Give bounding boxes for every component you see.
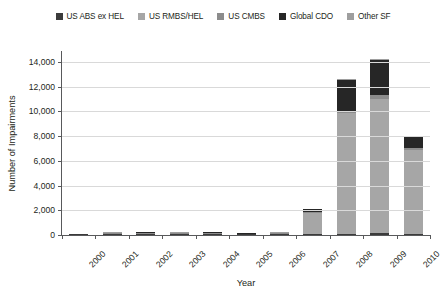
legend-item-2[interactable]: US CMBS (217, 12, 265, 21)
bar-2000[interactable] (69, 234, 88, 235)
legend-item-1[interactable]: US RMBS/HEL (138, 12, 203, 21)
legend-label: US RMBS/HEL (149, 12, 203, 21)
legend-item-0[interactable]: US ABS ex HEL (56, 12, 124, 21)
y-axis-tick (58, 186, 62, 187)
bar-segment-0 (103, 234, 122, 235)
y-axis-label: 8,000 (33, 132, 55, 141)
y-axis-tick (58, 161, 62, 162)
y-axis-label: 12,000 (29, 82, 55, 91)
gridline (62, 111, 430, 112)
x-axis-tick (95, 235, 96, 239)
x-axis-label-2001: 2001 (120, 249, 141, 270)
y-axis-label: 4,000 (33, 181, 55, 190)
gridline (62, 210, 430, 211)
x-axis-tick (363, 235, 364, 239)
bar-2004[interactable] (203, 232, 222, 235)
bar-segment-0 (203, 234, 222, 235)
bar-2008[interactable] (337, 79, 356, 235)
x-axis-tick (196, 235, 197, 239)
legend-label: Other SF (358, 12, 390, 21)
gridline (62, 161, 430, 162)
legend-label: US CMBS (228, 12, 265, 21)
bar-segment-0 (370, 233, 389, 235)
impairments-stacked-bar-chart: US ABS ex HELUS RMBS/HELUS CMBSGlobal CD… (0, 0, 446, 298)
gridline (62, 186, 430, 187)
x-axis-label-2010: 2010 (421, 249, 442, 270)
x-axis-label-2000: 2000 (87, 249, 108, 270)
gridline (62, 87, 430, 88)
bar-2005[interactable] (237, 233, 256, 235)
bar-segment-1 (303, 213, 322, 235)
x-axis-tick (263, 235, 264, 239)
y-axis-label: 6,000 (33, 156, 55, 165)
legend-item-3[interactable]: Global CDO (279, 12, 333, 21)
x-axis-tick (62, 235, 63, 239)
y-axis-tick (58, 136, 62, 137)
x-axis-tick (229, 235, 230, 239)
plot-area: 02,0004,0006,0008,00010,00012,00014,0002… (62, 52, 430, 235)
x-axis-label-2005: 2005 (254, 249, 275, 270)
bar-segment-0 (270, 234, 289, 235)
legend-label: US ABS ex HEL (67, 12, 124, 21)
y-axis-label: 2,000 (33, 206, 55, 215)
bar-2002[interactable] (136, 232, 155, 235)
x-axis-label-2002: 2002 (153, 249, 174, 270)
bar-2006[interactable] (270, 232, 289, 235)
bar-2007[interactable] (303, 209, 322, 235)
x-axis-tick (397, 235, 398, 239)
legend-swatch-icon (217, 13, 224, 20)
y-axis-tick (58, 210, 62, 211)
bar-segment-0 (303, 234, 322, 235)
x-axis-tick (430, 235, 431, 239)
x-axis-title: Year (62, 278, 430, 289)
bar-segment-0 (170, 234, 189, 235)
bar-segment-3 (370, 60, 389, 95)
legend-swatch-icon (279, 13, 286, 20)
bar-segment-3 (337, 80, 356, 112)
x-axis-tick (129, 235, 130, 239)
y-axis-tick (58, 62, 62, 63)
bar-segment-0 (404, 234, 423, 235)
bar-series-container (62, 52, 430, 235)
x-axis-label-2008: 2008 (354, 249, 375, 270)
bar-segment-0 (136, 234, 155, 235)
chart-legend: US ABS ex HELUS RMBS/HELUS CMBSGlobal CD… (0, 12, 446, 21)
bar-segment-1 (370, 99, 389, 233)
y-axis-tick (58, 87, 62, 88)
x-axis-label-2006: 2006 (287, 249, 308, 270)
legend-swatch-icon (347, 13, 354, 20)
bar-segment-3 (404, 137, 423, 149)
y-axis-label: 14,000 (29, 57, 55, 66)
legend-label: Global CDO (290, 12, 333, 21)
x-axis-line (61, 235, 430, 236)
y-axis-label: 0 (50, 231, 55, 240)
bar-2001[interactable] (103, 232, 122, 235)
legend-item-4[interactable]: Other SF (347, 12, 390, 21)
y-axis-title: Number of Impairments (6, 52, 18, 235)
gridline (62, 62, 430, 63)
x-axis-label-2007: 2007 (321, 249, 342, 270)
legend-swatch-icon (138, 13, 145, 20)
bar-segment-1 (404, 150, 423, 233)
legend-swatch-icon (56, 13, 63, 20)
x-axis-tick (296, 235, 297, 239)
x-axis-label-2004: 2004 (220, 249, 241, 270)
x-axis-tick (162, 235, 163, 239)
y-axis-tick (58, 111, 62, 112)
x-axis-label-2003: 2003 (187, 249, 208, 270)
gridline (62, 136, 430, 137)
bar-segment-0 (237, 234, 256, 235)
bar-2003[interactable] (170, 232, 189, 235)
x-axis-label-2009: 2009 (388, 249, 409, 270)
bar-segment-1 (337, 113, 356, 234)
x-axis-tick (330, 235, 331, 239)
y-axis-label: 10,000 (29, 107, 55, 116)
bar-segment-0 (337, 234, 356, 235)
bar-segment-0 (69, 234, 88, 235)
